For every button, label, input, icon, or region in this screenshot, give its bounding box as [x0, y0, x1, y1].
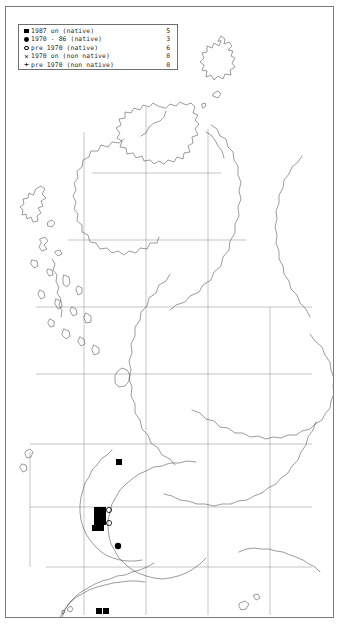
record-marker-square	[100, 507, 106, 513]
record-marker-square	[103, 608, 109, 614]
record-marker-circle	[115, 543, 121, 549]
record-marker-square	[116, 459, 122, 465]
legend-label: pre 1970 (native)	[31, 44, 154, 52]
filled-circle-icon	[22, 35, 31, 43]
record-marker-square	[94, 519, 100, 525]
record-marker-square	[100, 513, 106, 519]
legend-row: + pre 1970 (non native) 0	[22, 61, 174, 69]
legend-label: 1987 on (native)	[31, 27, 154, 35]
record-marker-square	[96, 608, 102, 614]
record-marker-open-circle	[106, 520, 111, 525]
legend-count: 6	[154, 44, 174, 52]
legend-row: × 1970 on (non native) 0	[22, 52, 174, 60]
legend-label: 1970 on (non native)	[31, 52, 154, 60]
legend-row: 1970 - 86 (native) 3	[22, 35, 174, 43]
legend-label: pre 1970 (non native)	[31, 61, 154, 69]
record-marker-square	[98, 525, 104, 531]
legend-count: 0	[154, 52, 174, 60]
legend-count: 0	[154, 61, 174, 69]
grid-lines	[30, 107, 312, 615]
data-points-layer	[92, 459, 122, 614]
record-marker-square	[100, 519, 106, 525]
distribution-map-page: 1987 on (native) 5 1970 - 86 (native) 3 …	[0, 0, 341, 625]
map-svg	[6, 7, 333, 617]
record-marker-open-circle	[106, 507, 111, 512]
legend-count: 3	[154, 35, 174, 43]
record-marker-square	[92, 525, 98, 531]
record-marker-square	[94, 507, 100, 513]
plus-icon: +	[22, 61, 31, 69]
legend-row: 1987 on (native) 5	[22, 27, 174, 35]
coastline-outline	[20, 36, 333, 617]
legend-label: 1970 - 86 (native)	[31, 35, 154, 43]
map-legend: 1987 on (native) 5 1970 - 86 (native) 3 …	[18, 24, 178, 70]
open-circle-icon	[22, 44, 31, 52]
filled-square-icon	[22, 27, 31, 35]
record-marker-square	[94, 513, 100, 519]
legend-count: 5	[154, 27, 174, 35]
map-canvas	[6, 7, 333, 617]
legend-row: pre 1970 (native) 6	[22, 44, 174, 52]
